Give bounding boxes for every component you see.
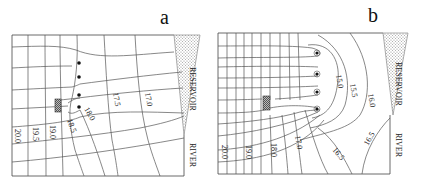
- svg-text:19.0: 19.0: [244, 145, 253, 159]
- svg-text:15.5: 15.5: [348, 83, 359, 98]
- well-icon: [315, 51, 318, 54]
- panel-a-building: [55, 99, 61, 112]
- panel-b-building: [263, 96, 270, 110]
- well-icon: [315, 72, 318, 75]
- svg-text:17.5: 17.5: [111, 92, 122, 107]
- panel-b-reservoir-label: RESERVOIR: [394, 62, 403, 106]
- well-icon: [77, 105, 81, 109]
- panel-a-reservoir-label: RESERVOIR: [188, 67, 197, 111]
- well-icon: [315, 90, 318, 93]
- well-icon: [77, 61, 81, 65]
- svg-text:17.0: 17.0: [143, 92, 154, 107]
- contour-19-5: [45, 35, 46, 176]
- panel-b-river-label: RIVER: [394, 133, 403, 158]
- svg-text:16.5: 16.5: [362, 130, 377, 147]
- svg-text:19.0: 19.0: [48, 125, 57, 139]
- panel-a-river-label: RIVER: [188, 143, 197, 168]
- svg-text:17.0: 17.0: [293, 135, 304, 150]
- figure-canvas: 20.0 19.5 19.0 18.5 18.0 17.5 17.0 RESER…: [0, 0, 422, 188]
- panel-b-wells: [314, 50, 320, 112]
- svg-text:15.0: 15.0: [334, 74, 345, 89]
- svg-text:18.0: 18.0: [269, 143, 278, 157]
- svg-text:18.5: 18.5: [65, 118, 78, 134]
- svg-text:20.0: 20.0: [13, 129, 22, 143]
- well-icon: [315, 107, 318, 110]
- well-icon: [77, 75, 81, 79]
- svg-text:16.0: 16.0: [366, 93, 377, 108]
- well-icon: [77, 93, 81, 97]
- svg-text:20.0: 20.0: [220, 145, 229, 159]
- svg-text:19.5: 19.5: [31, 127, 40, 141]
- contour-18-5: [70, 35, 84, 176]
- panel-a: [12, 35, 200, 176]
